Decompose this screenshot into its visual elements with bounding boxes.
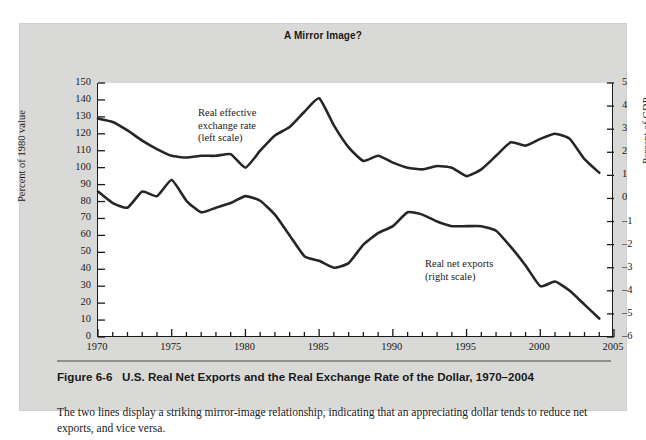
- x-tick-2005: 2005: [593, 341, 633, 352]
- y-tick-right--4: –4: [622, 284, 646, 295]
- y-tick-right-0: 0: [622, 191, 646, 202]
- x-tick-1985: 1985: [298, 341, 338, 352]
- x-tick-1980: 1980: [224, 341, 264, 352]
- y-tick-left-0: 0: [63, 330, 91, 341]
- annotation-exchange-line3: (left scale): [198, 132, 256, 145]
- figure-heading: Figure 6-6 U.S. Real Net Exports and the…: [57, 369, 605, 385]
- annotation-netexports-line1: Real net exports: [425, 258, 493, 271]
- y-tick-left-110: 110: [63, 144, 91, 155]
- y-tick-right--2: –2: [622, 238, 646, 249]
- y-tick-left-80: 80: [63, 195, 91, 206]
- plot-area: Real effective exchange rate (left scale…: [97, 83, 613, 337]
- y-tick-left-140: 140: [63, 93, 91, 104]
- y-tick-right--1: –1: [622, 215, 646, 226]
- line-real-net-exports: [98, 180, 599, 319]
- y-tick-left-50: 50: [63, 245, 91, 256]
- annotation-netexports-line2: (right scale): [425, 271, 493, 284]
- y-tick-left-150: 150: [63, 76, 91, 87]
- line-real-effective-exchange-rate: [98, 98, 599, 176]
- y-tick-right-4: 4: [622, 99, 646, 110]
- y-tick-right--3: –3: [622, 261, 646, 272]
- x-tick-1995: 1995: [446, 341, 486, 352]
- y-tick-right-1: 1: [622, 168, 646, 179]
- y-axis-left-title: Percent of 1980 value: [16, 110, 27, 202]
- chart-lines-svg: [98, 83, 614, 337]
- y-tick-left-30: 30: [63, 279, 91, 290]
- figure-number: Figure 6-6: [57, 370, 112, 383]
- x-tick-1975: 1975: [151, 341, 191, 352]
- y-tick-left-20: 20: [63, 296, 91, 307]
- y-tick-right-3: 3: [622, 122, 646, 133]
- y-tick-left-10: 10: [63, 313, 91, 324]
- chart-title: A Mirror Image?: [20, 30, 626, 41]
- figure-screenshot: A Mirror Image? Percent of 1980 value Pe…: [0, 0, 646, 440]
- y-tick-right--6: –6: [622, 330, 646, 341]
- figure-heading-text: U.S. Real Net Exports and the Real Excha…: [122, 370, 534, 383]
- x-tick-2000: 2000: [519, 341, 559, 352]
- plot-wrapper: 1501401301201101009080706050403020100 54…: [77, 59, 594, 314]
- annotation-exchange-line1: Real effective: [198, 107, 256, 120]
- annotation-real-effective-exchange-rate: Real effective exchange rate (left scale…: [198, 107, 256, 145]
- y-tick-right--5: –5: [622, 307, 646, 318]
- annotation-exchange-line2: exchange rate: [198, 120, 256, 133]
- figure-panel: A Mirror Image? Percent of 1980 value Pe…: [20, 24, 626, 410]
- axis-tick-marks: [98, 83, 614, 337]
- y-tick-left-120: 120: [63, 127, 91, 138]
- y-tick-left-70: 70: [63, 211, 91, 222]
- figure-caption-text: The two lines display a striking mirror-…: [57, 405, 605, 436]
- caption-divider-top: [57, 360, 611, 362]
- y-tick-left-40: 40: [63, 262, 91, 273]
- y-tick-left-130: 130: [63, 110, 91, 121]
- y-tick-left-90: 90: [63, 178, 91, 189]
- y-tick-right-5: 5: [622, 76, 646, 87]
- y-tick-right-2: 2: [622, 145, 646, 156]
- annotation-real-net-exports: Real net exports (right scale): [425, 258, 493, 283]
- x-tick-1970: 1970: [77, 341, 117, 352]
- y-tick-left-100: 100: [63, 161, 91, 172]
- y-tick-left-60: 60: [63, 228, 91, 239]
- x-tick-1990: 1990: [372, 341, 412, 352]
